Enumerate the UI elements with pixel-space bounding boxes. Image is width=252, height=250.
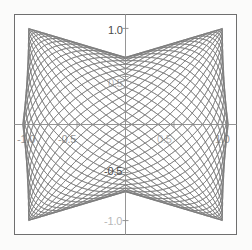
x-tick-label-1.0: 1.0 [215, 133, 230, 145]
parametric-plot [14, 14, 237, 235]
x-tick-label-0.5: 0.5 [157, 133, 172, 145]
y-tick-label-1.0: 1.0 [108, 24, 123, 36]
x-tick-label--1.0: -1.0 [17, 133, 35, 145]
y-tick-label--1.0: -1.0 [104, 215, 122, 227]
y-tick-label--0.5: -0.5 [104, 165, 122, 177]
x-tick-label--0.5: -0.5 [58, 133, 76, 145]
y-tick-label-0.5: 0.5 [108, 77, 123, 89]
figure-page: 1.0 0.5 -0.5 -1.0 -1.0 -0.5 0.5 1.0 [0, 0, 252, 250]
axis-cross [14, 14, 237, 235]
